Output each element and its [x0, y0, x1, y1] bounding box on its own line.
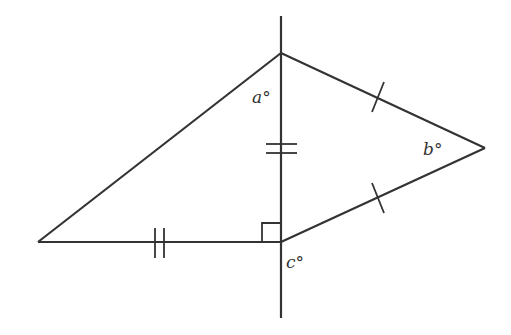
lower-right-side: [281, 148, 485, 242]
angle-label-b: b°: [423, 139, 442, 159]
angle-label-c: c°: [286, 252, 304, 272]
left-hypotenuse: [38, 53, 281, 242]
single-tick-lower-right: [372, 183, 384, 213]
angle-label-a: a°: [252, 87, 271, 107]
right-angle-marker: [262, 223, 281, 242]
geometry-diagram: a° b° c°: [0, 0, 511, 335]
upper-right-side: [281, 53, 485, 148]
